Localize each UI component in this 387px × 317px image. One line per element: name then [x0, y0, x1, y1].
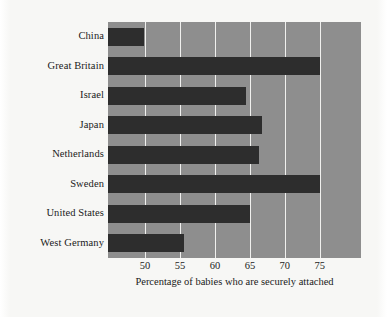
category-label-great-britain: Great Britain	[0, 60, 104, 71]
x-tick-label-55: 55	[175, 260, 186, 271]
category-label-netherlands: Netherlands	[0, 148, 104, 159]
category-axis-labels: China Great Britain Israel Japan Netherl…	[0, 22, 104, 258]
bar-row	[108, 170, 361, 200]
bar-china	[108, 28, 144, 46]
bar-row	[108, 140, 361, 170]
bar-sweden	[108, 175, 320, 193]
category-label-sweden: Sweden	[0, 178, 104, 189]
bar-row	[108, 111, 361, 141]
x-tick-label-60: 60	[210, 260, 221, 271]
x-tick-label-50: 50	[140, 260, 151, 271]
bar-united-states	[108, 205, 250, 223]
bar-row	[108, 229, 361, 259]
bar-netherlands	[108, 146, 259, 164]
bar-israel	[108, 87, 246, 105]
bar-japan	[108, 116, 262, 134]
bar-row	[108, 52, 361, 82]
category-label-israel: Israel	[0, 89, 104, 100]
plot-area	[108, 22, 361, 258]
bar-row	[108, 81, 361, 111]
x-tick-label-70: 70	[280, 260, 291, 271]
x-tick-label-65: 65	[245, 260, 256, 271]
x-axis-title: Percentage of babies who are securely at…	[108, 276, 361, 287]
x-tick-label-75: 75	[315, 260, 326, 271]
category-label-united-states: United States	[0, 207, 104, 218]
category-label-china: China	[0, 30, 104, 41]
category-label-west-germany: West Germany	[0, 237, 104, 248]
bar-row	[108, 22, 361, 52]
bar-row	[108, 199, 361, 229]
x-axis-tick-labels: 505560657075	[108, 260, 361, 276]
bar-west-germany	[108, 234, 184, 252]
bar-great-britain	[108, 57, 320, 75]
category-label-japan: Japan	[0, 119, 104, 130]
bar-chart-figure: China Great Britain Israel Japan Netherl…	[0, 0, 387, 317]
